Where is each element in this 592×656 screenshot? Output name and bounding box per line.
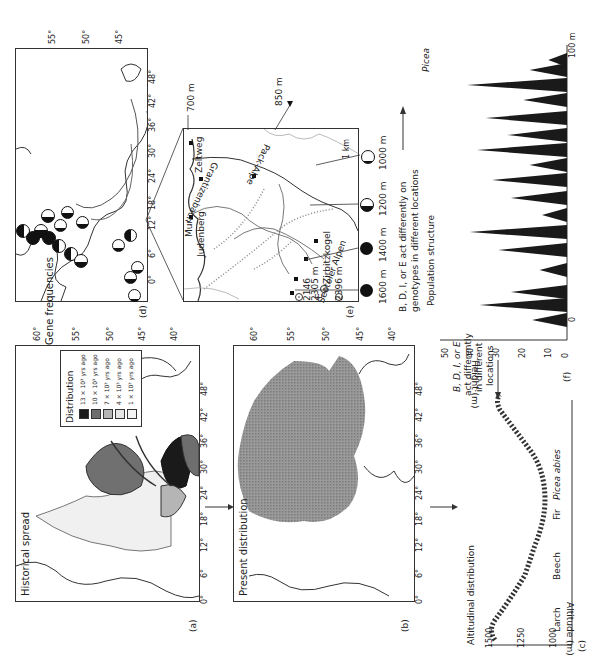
species-label-fir: Fir [552,509,562,520]
panel-c-chart [0,0,592,656]
species-label-larch: Larch [552,607,562,632]
panel-c-letter: (c) [577,640,587,652]
panel-c-ylabel: Altitude (m) [565,602,575,656]
species-label-beech: Beech [552,552,562,580]
species-label-picea-abies: Picea abies [552,449,562,500]
panel-c-ytick: 1500 [485,628,494,648]
altitude-profile [492,395,546,640]
panel-c-ytick: 1250 [517,628,526,648]
